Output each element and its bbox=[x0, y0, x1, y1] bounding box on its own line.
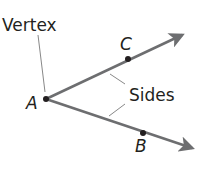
point-b-label: B bbox=[135, 136, 147, 156]
point-a bbox=[43, 96, 49, 102]
ray-ab bbox=[46, 99, 192, 148]
sides-label: Sides bbox=[129, 85, 175, 105]
point-a-label: A bbox=[25, 93, 38, 113]
sides-leader-line-top bbox=[110, 74, 125, 84]
angle-diagram: Vertex Sides A C B bbox=[0, 0, 211, 176]
point-c-label: C bbox=[120, 34, 132, 54]
point-c bbox=[125, 56, 131, 62]
vertex-leader-line bbox=[38, 35, 45, 92]
vertex-label: Vertex bbox=[2, 15, 57, 35]
sides-leader-line-bottom bbox=[109, 104, 125, 116]
